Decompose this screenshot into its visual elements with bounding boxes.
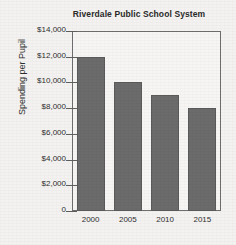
y-axis-tick-label: $6,000 [42, 128, 66, 137]
y-axis-tick-label: $8,000 [42, 102, 66, 111]
bars-layer [72, 31, 221, 211]
y-axis-tick-label: $2,000 [42, 179, 66, 188]
bar-chart-figure: Riverdale Public School System Spending … [0, 0, 236, 245]
x-axis-tick-label: 2015 [182, 215, 222, 224]
x-axis-tick-label: 2010 [145, 215, 185, 224]
bar [188, 108, 216, 211]
y-axis-tick-label: $4,000 [42, 154, 66, 163]
x-axis-tick-label: 2000 [71, 215, 111, 224]
chart-title: Riverdale Public School System [46, 9, 232, 19]
y-axis-tick-label: $14,000 [37, 25, 66, 34]
bar [114, 82, 142, 211]
y-axis-tick-label: 0 [62, 205, 66, 214]
y-axis-title: Spending per Pupil [17, 7, 27, 147]
x-axis-tick-label: 2005 [108, 215, 148, 224]
y-axis-tick-label: $10,000 [37, 76, 66, 85]
y-axis-tick-mark [66, 211, 77, 212]
y-axis-tick-label: $12,000 [37, 51, 66, 60]
bar [77, 57, 105, 211]
bar [151, 95, 179, 211]
